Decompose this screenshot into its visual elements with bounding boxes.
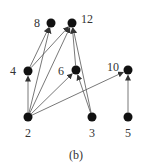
node-3: [88, 113, 97, 122]
node-label-6: 6: [58, 64, 64, 78]
node-8: [47, 19, 56, 28]
node-2: [24, 113, 33, 122]
node-6: [72, 66, 81, 75]
node-label-2: 2: [25, 126, 31, 140]
node-4: [24, 67, 33, 76]
divisibility-diagram: 8124610235 (b): [0, 0, 144, 167]
node-label-3: 3: [89, 126, 95, 140]
node-label-5: 5: [125, 126, 131, 140]
node-label-12: 12: [81, 12, 93, 26]
node-10: [124, 66, 133, 75]
node-label-10: 10: [107, 60, 119, 74]
edge-4-to-12: [31, 27, 68, 68]
node-label-4: 4: [10, 64, 16, 78]
node-label-8: 8: [34, 16, 40, 30]
figure-caption: (b): [69, 148, 83, 162]
node-12: [68, 19, 77, 28]
edge-4-to-8: [30, 28, 49, 67]
node-5: [124, 113, 133, 122]
